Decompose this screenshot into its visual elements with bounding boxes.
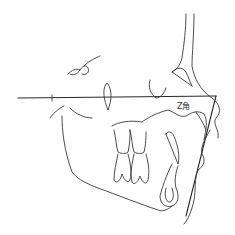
- mandible-ramus: [62, 116, 172, 211]
- maxilla-contour: [112, 110, 206, 140]
- lower-molar-2: [131, 154, 149, 184]
- upper-molar-1: [114, 130, 130, 154]
- upper-molar-2: [130, 130, 146, 154]
- ear-contour: [68, 56, 100, 75]
- lower-incisor-inner: [165, 188, 173, 202]
- nose-inner: [172, 68, 192, 86]
- orbit-contour: [149, 80, 166, 98]
- lower-molar-1: [114, 154, 131, 182]
- z-angle-label: Z角: [177, 100, 190, 111]
- cephalometric-diagram: Z角: [0, 0, 235, 235]
- frankfort-horizontal-line: [18, 96, 216, 98]
- condyle-contour: [50, 106, 92, 118]
- forehead-soft-tissue: [172, 14, 192, 86]
- lower-incisor-symphysis: [160, 164, 178, 207]
- profile-z-line: [186, 96, 216, 216]
- upper-incisor: [166, 132, 179, 164]
